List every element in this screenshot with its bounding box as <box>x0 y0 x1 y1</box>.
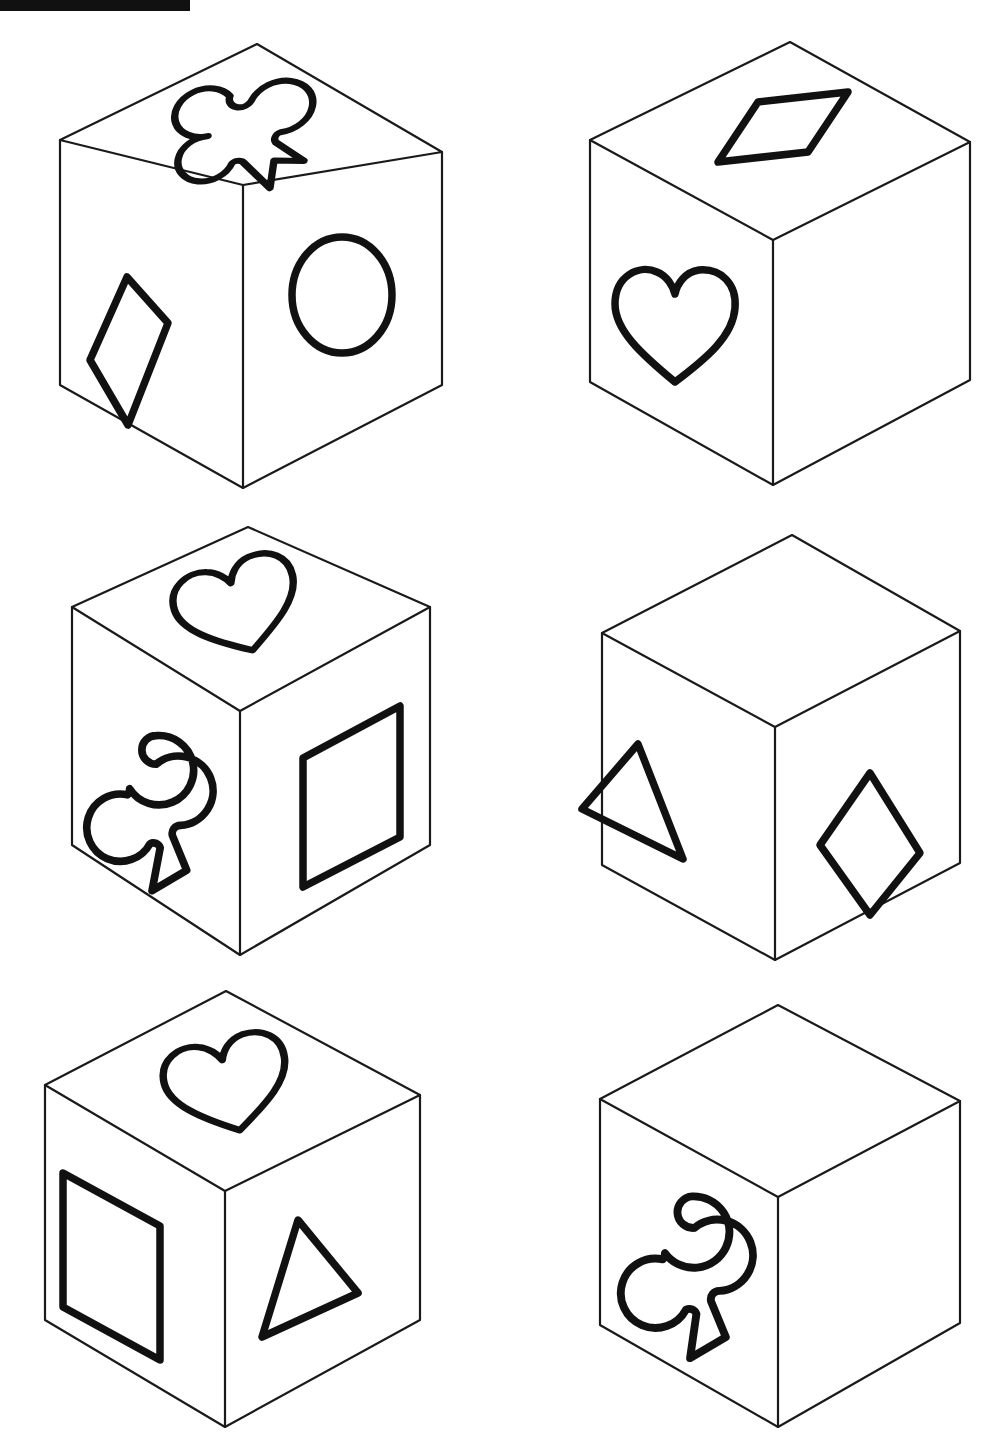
cube-bottom-left[interactable] <box>20 975 450 1435</box>
cube-middle-left[interactable] <box>20 515 450 965</box>
cube-1-drawing <box>40 30 460 500</box>
cube-top-left[interactable] <box>40 30 460 500</box>
cube-4-drawing <box>560 515 990 965</box>
cube-bottom-right[interactable] <box>560 975 990 1435</box>
worksheet-page <box>0 0 1008 1445</box>
cube-2-drawing <box>570 30 990 500</box>
scan-edge-artifact <box>0 0 190 11</box>
cube-6-drawing <box>560 975 990 1435</box>
cube-3-drawing <box>20 515 450 965</box>
cube-middle-right[interactable] <box>560 515 990 965</box>
cube-top-right[interactable] <box>570 30 990 500</box>
cube-5-drawing <box>20 975 450 1435</box>
